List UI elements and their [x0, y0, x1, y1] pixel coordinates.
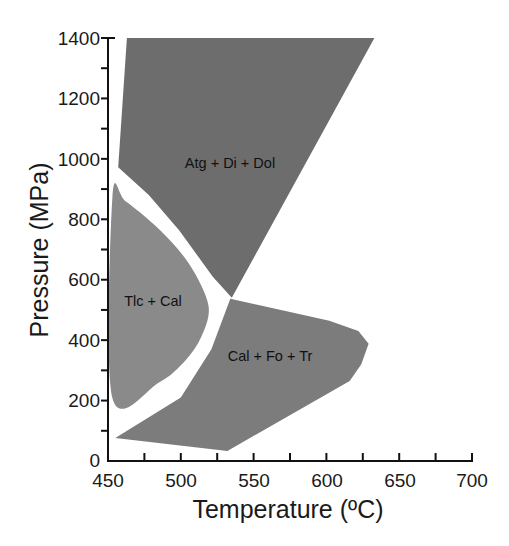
x-tick-label-600: 600 — [311, 470, 343, 491]
region-label-tlc-cal: Tlc + Cal — [124, 293, 182, 309]
y-tick-label-400: 400 — [68, 330, 100, 351]
y-tick-label-1000: 1000 — [58, 149, 100, 170]
y-ticks — [101, 38, 108, 431]
phase-diagram-chart: 0 200 400 600 800 1000 1200 1400 450 500… — [0, 0, 509, 546]
phase-regions — [109, 38, 375, 451]
x-tick-labels: 450 500 550 600 650 700 — [92, 470, 488, 491]
x-tick-label-500: 500 — [165, 470, 197, 491]
y-tick-label-600: 600 — [68, 269, 100, 290]
x-tick-label-450: 450 — [92, 470, 124, 491]
x-tick-label-700: 700 — [456, 470, 488, 491]
y-tick-label-1200: 1200 — [58, 88, 100, 109]
y-tick-label-1400: 1400 — [58, 28, 100, 49]
x-tick-label-550: 550 — [238, 470, 270, 491]
y-tick-label-200: 200 — [68, 390, 100, 411]
y-tick-label-0: 0 — [89, 450, 100, 471]
y-tick-label-800: 800 — [68, 209, 100, 230]
x-axis-title: Temperature (ºC) — [192, 495, 383, 523]
y-axis-title: Pressure (MPa) — [25, 162, 53, 337]
region-label-cal-fo-tr: Cal + Fo + Tr — [228, 348, 313, 364]
y-tick-labels: 0 200 400 600 800 1000 1200 1400 — [58, 28, 100, 471]
x-ticks — [144, 453, 472, 461]
region-label-atg-di-dol: Atg + Di + Dol — [185, 155, 275, 171]
x-tick-label-650: 650 — [384, 470, 416, 491]
